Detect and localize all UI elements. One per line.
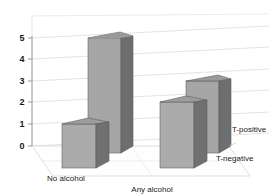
bar-any-alcohol-t-negative — [160, 96, 207, 168]
y-tick-2: 2 — [19, 97, 24, 107]
z-label-t-negative: T-negative — [216, 154, 254, 163]
y-tick-3: 3 — [19, 76, 24, 86]
chart-container: 5 4 3 2 1 0 — [0, 0, 273, 194]
y-tick-5: 5 — [19, 33, 24, 43]
z-label-t-positive: T-positive — [232, 125, 267, 134]
y-tick-4: 4 — [19, 54, 24, 64]
x-label-no-alcohol: No alcohol — [47, 174, 85, 183]
bar-no-alcohol-t-negative — [62, 118, 109, 168]
x-label-any-alcohol: Any alcohol — [131, 185, 173, 194]
y-tick-0: 0 — [19, 141, 24, 151]
y-tick-1: 1 — [19, 119, 24, 129]
bar-chart-3d: 5 4 3 2 1 0 — [0, 0, 273, 194]
